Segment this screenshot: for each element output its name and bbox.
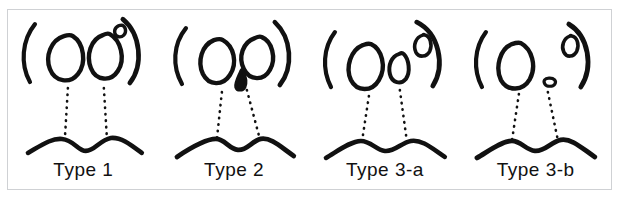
- right-parenthesis-stroke: [275, 22, 289, 85]
- dotted-guide-left: [361, 96, 368, 142]
- center-teardrop-stroke: [235, 70, 245, 90]
- left-parenthesis-stroke: [476, 32, 486, 87]
- right-large-oval-stroke: [241, 37, 273, 78]
- figure-root: Type 1: [0, 0, 626, 208]
- left-large-oval-stroke: [499, 43, 534, 89]
- upper-right-small-oval-stroke: [414, 34, 430, 56]
- left-parenthesis-stroke: [175, 28, 186, 84]
- dotted-guide-right: [247, 90, 260, 139]
- lip-wave-stroke: [477, 140, 595, 158]
- center-medium-oval-stroke: [389, 53, 408, 83]
- dotted-guide-right: [399, 90, 406, 141]
- dotted-guide-left: [65, 88, 68, 138]
- panel-type-1: Type 1: [8, 10, 159, 189]
- lip-wave-stroke: [28, 138, 142, 153]
- left-parenthesis-stroke: [24, 24, 35, 82]
- figure-frame: Type 1: [7, 9, 612, 190]
- left-large-oval-stroke: [348, 44, 382, 89]
- dotted-guide-left: [512, 94, 519, 141]
- dotted-guide-left: [217, 92, 222, 139]
- center-tiny-oval-stroke: [544, 78, 555, 86]
- panel-label-type-2: Type 2: [159, 160, 310, 179]
- lip-wave-stroke: [325, 141, 444, 158]
- right-large-oval-stroke: [89, 34, 122, 79]
- panel-type-3-b: Type 3-b: [460, 10, 611, 189]
- left-large-oval-stroke: [48, 35, 83, 80]
- lip-wave-stroke: [177, 139, 294, 157]
- panel-label-type-3-a: Type 3-a: [310, 160, 461, 179]
- dotted-guide-right: [548, 92, 558, 140]
- upper-right-small-oval-stroke: [563, 35, 578, 56]
- footer-artifact: [355, 196, 425, 204]
- dotted-guide-right: [104, 88, 107, 137]
- panel-type-2: Type 2: [159, 10, 310, 189]
- upper-right-small-circle-stroke: [115, 25, 126, 37]
- panel-type-3-a: Type 3-a: [310, 10, 461, 189]
- panel-label-type-3-b: Type 3-b: [460, 160, 611, 179]
- left-parenthesis-stroke: [324, 32, 334, 87]
- panel-label-type-1: Type 1: [8, 160, 159, 179]
- left-large-oval-stroke: [200, 39, 234, 83]
